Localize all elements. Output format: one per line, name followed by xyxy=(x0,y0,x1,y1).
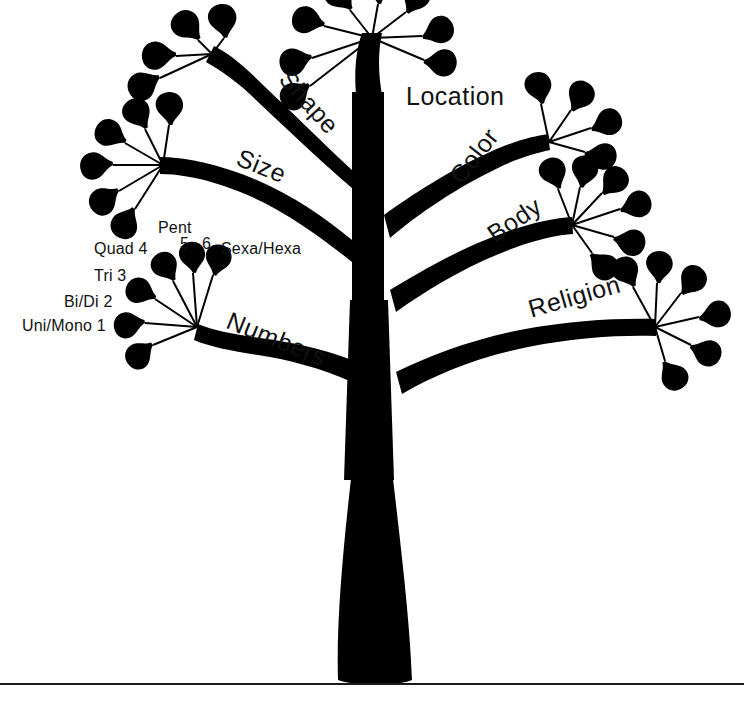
numbers-label-quad: Quad 4 xyxy=(94,240,148,258)
numbers-label-sexa-hexa: Sexa/Hexa xyxy=(221,240,301,258)
numbers-label-six: 6 xyxy=(202,235,211,253)
bottom-divider xyxy=(0,683,744,685)
leaf-cluster-color xyxy=(522,70,626,172)
numbers-label-five: 5 xyxy=(180,235,189,253)
numbers-label-bi-di: Bi/Di 2 xyxy=(64,293,113,311)
diagram-canvas: Shape Location Size Color Body Numbers R… xyxy=(0,0,744,701)
numbers-label-tri: Tri 3 xyxy=(94,267,126,285)
branch-label-location: Location xyxy=(406,82,505,111)
numbers-label-uni-mono: Uni/Mono 1 xyxy=(22,317,106,335)
tree-illustration xyxy=(0,0,744,701)
leaf-cluster-numbers xyxy=(112,240,234,374)
